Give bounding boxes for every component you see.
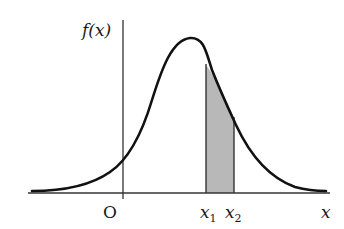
density-curve bbox=[32, 38, 326, 191]
shaded-area bbox=[206, 65, 234, 193]
density-diagram: f(x) O x1 x2 x bbox=[0, 0, 344, 229]
x2-label: x2 bbox=[225, 202, 242, 225]
x-axis-label: x bbox=[321, 202, 331, 222]
origin-label: O bbox=[103, 202, 117, 222]
y-axis-label: f(x) bbox=[80, 20, 111, 40]
x1-label: x1 bbox=[200, 202, 217, 225]
